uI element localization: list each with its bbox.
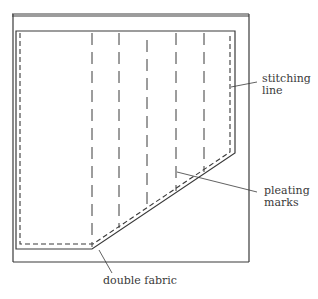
pleating-marks-label-2: marks bbox=[264, 196, 299, 209]
pattern-diagram: stitching line pleating marks double fab… bbox=[0, 0, 318, 299]
leader-lines bbox=[99, 82, 257, 273]
pleating-marks-leader bbox=[177, 172, 257, 192]
inner-pattern-piece bbox=[16, 31, 235, 249]
pleating-marks bbox=[92, 33, 204, 247]
double-fabric-label: double fabric bbox=[103, 274, 177, 287]
stitching-line-label-2: line bbox=[262, 84, 283, 97]
stitching-line bbox=[20, 33, 230, 244]
outer-fabric bbox=[12, 14, 249, 262]
